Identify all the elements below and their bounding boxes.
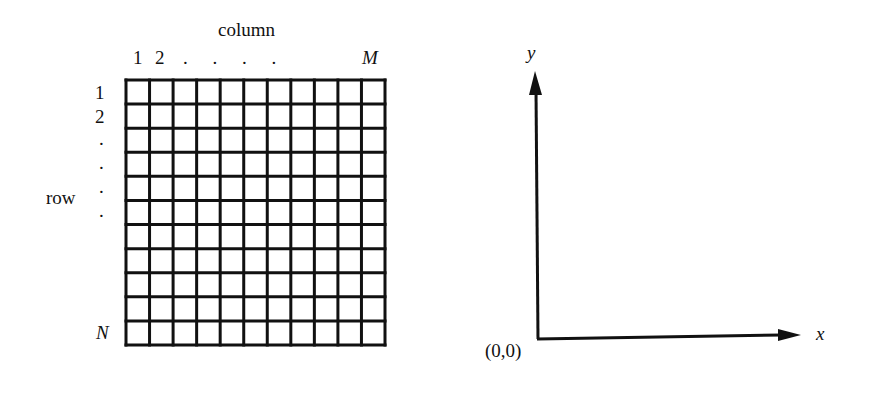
- y-axis-line: [536, 90, 538, 339]
- origin-label: (0,0): [485, 341, 521, 360]
- y-axis-label: y: [527, 43, 535, 62]
- axes: [0, 0, 871, 395]
- x-axis-line: [537, 335, 782, 339]
- x-axis-label: x: [816, 324, 824, 343]
- x-axis-arrow-icon: [778, 329, 801, 341]
- y-axis-arrow-icon: [529, 71, 542, 95]
